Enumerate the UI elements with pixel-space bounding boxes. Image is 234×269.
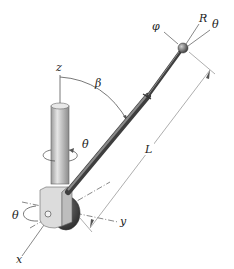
label-beta: β <box>94 77 101 90</box>
label-R: R <box>198 12 207 25</box>
label-y: y <box>119 215 127 228</box>
dim-extension-top <box>189 52 215 74</box>
x-axis <box>22 225 44 256</box>
rod-outer-highlight <box>68 95 147 190</box>
label-z: z <box>55 61 62 74</box>
dim-extension-bottom <box>80 218 92 232</box>
label-L: L <box>144 143 152 156</box>
label-theta-top: θ <box>212 18 219 31</box>
end-ball <box>178 43 188 53</box>
pivot-pin <box>45 211 51 217</box>
rotation-arrowhead <box>69 148 74 153</box>
phi-direction <box>164 32 178 44</box>
theta-base-arc <box>23 206 38 221</box>
arm-diagram: z β θ̇ x y θ φ R θ L <box>0 0 234 269</box>
column-top <box>51 103 69 109</box>
label-phi: φ <box>152 20 160 33</box>
label-theta-base: θ <box>12 209 19 222</box>
label-theta-dot: θ̇ <box>82 138 89 151</box>
vertical-column <box>51 106 69 184</box>
beta-arc <box>60 77 128 122</box>
label-x: x <box>16 253 23 266</box>
rod-inner-highlight <box>148 52 179 95</box>
rod-inner <box>148 52 180 96</box>
rod-outer <box>68 96 148 192</box>
theta-direction <box>188 30 210 46</box>
R-direction <box>186 24 199 44</box>
